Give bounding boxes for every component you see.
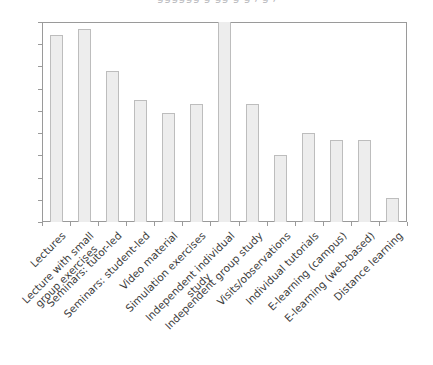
- x-axis-label: Lecture with smallgroup exercises: [20, 230, 104, 314]
- bar: [274, 155, 287, 222]
- x-axis-label-line: Video material: [117, 229, 180, 292]
- x-axis-label: Seminars: tutor-led: [45, 230, 124, 309]
- x-axis-label-line: Seminars: student-led: [62, 229, 153, 320]
- x-axis-tick-mark: [210, 222, 211, 226]
- x-axis-tick-mark: [267, 222, 268, 226]
- x-axis-tick-mark: [42, 222, 43, 226]
- x-axis-label-line: group exercises: [28, 238, 104, 314]
- x-axis-tick-mark: [182, 222, 183, 226]
- x-axis-tick-mark: [126, 222, 127, 226]
- x-axis-label: Individual tutorials: [244, 230, 321, 307]
- x-axis-tick-mark: [323, 222, 324, 226]
- bar: [246, 104, 259, 222]
- x-axis-tick-mark: [295, 222, 296, 226]
- bar: [162, 113, 175, 222]
- x-axis-label-line: Distance learning: [331, 229, 405, 303]
- x-axis-label-line: Independent group study: [162, 229, 264, 331]
- x-axis-tick-mark: [407, 222, 408, 226]
- bar: [386, 198, 399, 222]
- bar: [78, 29, 91, 222]
- x-axis-tick-mark: [379, 222, 380, 226]
- x-axis-label: Independent group study: [163, 230, 265, 332]
- x-axis-label: Simulation exercises: [124, 230, 209, 315]
- bars-container: [42, 22, 407, 222]
- cropped-title-remnant: gggggg g gg g g , g ,: [0, 0, 433, 3]
- x-axis-label: Seminars: student-led: [62, 230, 152, 320]
- x-axis-tick-mark: [351, 222, 352, 226]
- bar: [218, 22, 231, 222]
- x-axis-label-line: E-learning (campus): [265, 229, 348, 312]
- bar: [134, 100, 147, 222]
- x-axis-label-line: Lecture with small: [19, 229, 95, 305]
- x-axis-label: Independent individualstudy: [143, 230, 245, 332]
- bar-chart-figure: gggggg g gg g g , g , 010203040506070809…: [0, 0, 433, 365]
- x-axis-tick-mark: [154, 222, 155, 226]
- bar: [330, 140, 343, 222]
- x-axis-label: Visits/observations: [215, 230, 293, 308]
- x-axis-label-line: Seminars: tutor-led: [44, 229, 124, 309]
- x-axis-label-line: Individual tutorials: [243, 229, 321, 307]
- x-axis-label-line: Visits/observations: [214, 229, 292, 307]
- bar: [358, 140, 371, 222]
- bar: [302, 133, 315, 222]
- x-axis-tick-mark: [98, 222, 99, 226]
- x-axis-label: E-learning (web-based): [283, 230, 377, 324]
- x-axis-tick-mark: [70, 222, 71, 226]
- x-axis-label-line: E-learning (web-based): [282, 229, 377, 324]
- x-axis-label: Video material: [118, 230, 180, 292]
- x-axis-tick-mark: [239, 222, 240, 226]
- bar: [106, 71, 119, 222]
- y-axis: 0102030405060708090: [0, 0, 42, 240]
- x-axis-label-line: Simulation exercises: [123, 229, 208, 314]
- x-axis-label: Distance learning: [332, 230, 405, 303]
- bar: [190, 104, 203, 222]
- x-axis-label-line: Independent individual: [142, 229, 236, 323]
- x-axis-label-line: study: [151, 238, 245, 332]
- bar: [50, 35, 63, 222]
- x-axis-label: E-learning (campus): [266, 230, 349, 313]
